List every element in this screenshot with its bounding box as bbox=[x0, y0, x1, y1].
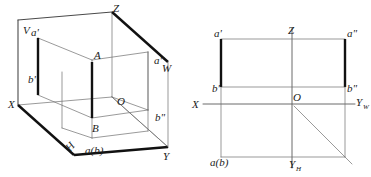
label-point-b-side-pictorial: b" bbox=[155, 111, 166, 123]
multiview-projection: a' b' a" b" a(b) Z X O Y W Y H bbox=[191, 24, 370, 173]
label-axis-yh-ortho: Y H bbox=[289, 158, 302, 173]
axonometric-view: V Z X Y O a' b' A B a" b" a(b) W H bbox=[7, 2, 172, 162]
label-axis-x-ortho: X bbox=[191, 98, 200, 110]
top-view-construction bbox=[221, 87, 345, 157]
label-axis-yh-subscript: H bbox=[295, 165, 302, 173]
label-point-a-top-ortho: a(b) bbox=[210, 156, 229, 169]
inner-projection-box bbox=[92, 52, 148, 118]
label-plane-v: V bbox=[23, 24, 31, 36]
label-plane-h: H bbox=[62, 139, 78, 154]
label-origin-pictorial: O bbox=[117, 95, 125, 107]
label-axis-yw-ortho: Y W bbox=[356, 96, 370, 111]
label-axis-yw-subscript: W bbox=[363, 103, 370, 111]
label-axis-y-pictorial: Y bbox=[163, 150, 171, 162]
label-point-b-space: B bbox=[92, 122, 99, 134]
label-point-b-front-ortho: b' bbox=[212, 82, 221, 94]
projection-axes bbox=[203, 28, 355, 168]
label-origin-ortho: O bbox=[293, 91, 301, 103]
label-axis-x-pictorial: X bbox=[7, 98, 16, 110]
label-point-b-front-pictorial: b' bbox=[28, 73, 37, 85]
descriptive-geometry-figure: V Z X Y O a' b' A B a" b" a(b) W H bbox=[0, 0, 371, 177]
label-axis-z-pictorial: Z bbox=[113, 2, 120, 14]
upper-view-rectangle bbox=[221, 39, 345, 87]
label-point-a-side-ortho: a" bbox=[347, 27, 358, 39]
label-point-a-top-pictorial: a(b) bbox=[85, 144, 104, 157]
label-point-a-space: A bbox=[93, 49, 101, 61]
label-point-a-front-ortho: a' bbox=[214, 27, 223, 39]
label-point-b-side-ortho: b" bbox=[347, 82, 358, 94]
label-axis-z-ortho: Z bbox=[288, 24, 295, 36]
label-plane-w: W bbox=[162, 62, 172, 74]
projector-lines bbox=[38, 38, 168, 147]
w-plane-outline bbox=[112, 12, 168, 147]
label-point-a-front-pictorial: a' bbox=[31, 26, 40, 38]
